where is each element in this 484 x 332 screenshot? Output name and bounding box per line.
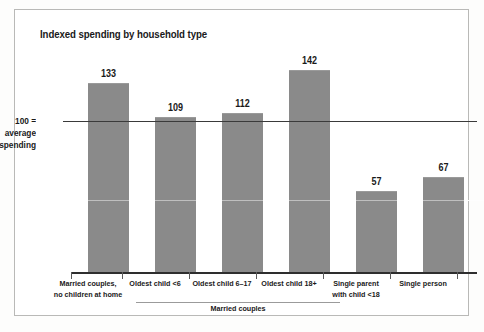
category-label-line-1: Oldest child 6–17: [186, 278, 258, 289]
ref-label-line-2: average: [0, 127, 36, 139]
category-label-line-1: Married couples,: [52, 278, 124, 289]
bar-value-label: 67: [413, 162, 473, 173]
bar: [423, 177, 464, 272]
bar: [155, 117, 196, 272]
ref-label-line-3: spending: [0, 139, 36, 151]
ref-label-line-1: 100 =: [0, 115, 36, 127]
group-bracket-rule: [136, 302, 340, 303]
plot-area: 133 109 112 142: [75, 50, 477, 272]
bar-slot: 67: [410, 50, 477, 272]
bar: [356, 191, 397, 272]
bar: [88, 83, 129, 272]
bar-value-label: 57: [346, 176, 406, 187]
category-label-line-2: no children at home: [52, 289, 124, 300]
bar-slot: 57: [343, 50, 410, 272]
bar-slot: 112: [209, 50, 276, 272]
category-label: Single parent with child <18: [320, 278, 392, 300]
category-label-line-1: Single parent: [320, 278, 392, 289]
bar-value-label: 133: [78, 68, 138, 79]
category-label: Oldest child 18+: [253, 278, 325, 289]
category-label: Oldest child <6: [119, 278, 191, 289]
category-label-line-1: Single person: [387, 278, 459, 289]
scan-gridline: [410, 200, 484, 201]
bar-slot: 133: [75, 50, 142, 272]
bar-value-label: 112: [212, 98, 272, 109]
category-label: Oldest child 6–17: [186, 278, 258, 289]
x-axis: [71, 272, 477, 274]
group-bracket-label: Married couples: [146, 304, 330, 313]
figure: Indexed spending by household type 133 1…: [0, 0, 484, 332]
category-label: Single person: [387, 278, 459, 289]
bar-slot: 142: [276, 50, 343, 272]
chart-frame: Indexed spending by household type 133 1…: [14, 9, 469, 316]
bar-slot: 109: [142, 50, 209, 272]
average-reference-label: 100 = average spending: [0, 115, 36, 151]
category-label-line-1: Oldest child <6: [119, 278, 191, 289]
category-label-line-1: Oldest child 18+: [253, 278, 325, 289]
category-label-line-2: with child <18: [320, 289, 392, 300]
bar: [289, 70, 330, 272]
bar-value-label: 142: [279, 55, 339, 66]
bar-value-label: 109: [145, 102, 205, 113]
category-label: Married couples, no children at home: [52, 278, 124, 300]
chart-title: Indexed spending by household type: [40, 28, 207, 40]
average-reference-line: [63, 121, 477, 122]
bar: [222, 113, 263, 272]
